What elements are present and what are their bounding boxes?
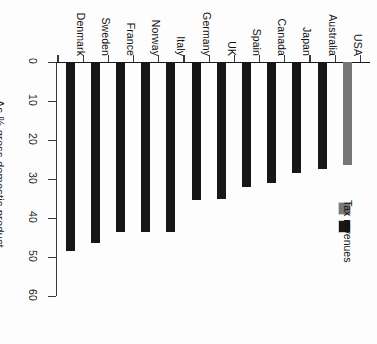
value-tick-label: 20 <box>27 128 39 150</box>
category-tick <box>259 55 260 62</box>
category-label-australia: Australia <box>327 8 339 56</box>
category-tick <box>284 55 285 62</box>
category-label-germany: Germany <box>201 8 213 56</box>
category-label-japan: Japan <box>301 8 313 56</box>
category-tick <box>335 55 336 62</box>
category-label-denmark: Denmark <box>75 8 87 56</box>
bar-denmark <box>66 62 75 251</box>
value-tick-label: 30 <box>27 167 39 189</box>
category-tick <box>360 55 361 62</box>
value-tick <box>48 257 56 258</box>
category-label-canada: Canada <box>276 8 288 56</box>
value-tick-label: 40 <box>27 206 39 228</box>
category-label-spain: Spain <box>251 8 263 56</box>
bar-australia <box>318 62 327 169</box>
value-tick <box>48 101 56 102</box>
category-tick <box>158 55 159 62</box>
category-tick <box>309 55 310 62</box>
value-axis-title: As % gross domestic product <box>0 100 6 248</box>
value-tick-label: 50 <box>27 245 39 267</box>
value-tick <box>48 218 56 219</box>
category-tick <box>234 55 235 62</box>
value-tick-label: 60 <box>27 284 39 306</box>
category-tick <box>183 55 184 62</box>
value-tick <box>48 140 56 141</box>
category-label-sweden: Sweden <box>100 8 112 56</box>
category-label-italy: Italy <box>175 8 187 56</box>
category-tick <box>57 55 58 62</box>
bar-norway <box>141 62 150 232</box>
category-label-france: France <box>125 8 137 56</box>
value-axis-spine <box>56 62 57 296</box>
value-tick <box>48 62 56 63</box>
bar-chart: 0102030405060 DenmarkSwedenFranceNorwayI… <box>0 0 377 344</box>
bar-uk <box>217 62 226 199</box>
bar-italy <box>166 62 175 232</box>
category-tick <box>133 55 134 62</box>
value-tick <box>48 179 56 180</box>
bar-sweden <box>91 62 100 243</box>
bar-usa <box>343 62 352 165</box>
bar-spain <box>242 62 251 187</box>
bar-japan <box>292 62 301 173</box>
bar-germany <box>192 62 201 200</box>
category-tick <box>108 55 109 62</box>
bar-france <box>116 62 125 232</box>
category-label-usa: USA <box>352 8 364 56</box>
value-tick <box>48 296 56 297</box>
value-tick-label: 10 <box>27 89 39 111</box>
legend-label-tax-revenues: Tax revenues <box>342 200 354 262</box>
category-label-uk: UK <box>226 8 238 56</box>
category-tick <box>209 55 210 62</box>
category-label-norway: Norway <box>150 8 162 56</box>
value-tick-label: 0 <box>27 50 39 72</box>
category-tick <box>83 55 84 62</box>
chart-page: 0102030405060 DenmarkSwedenFranceNorwayI… <box>0 0 377 344</box>
bar-canada <box>267 62 276 183</box>
